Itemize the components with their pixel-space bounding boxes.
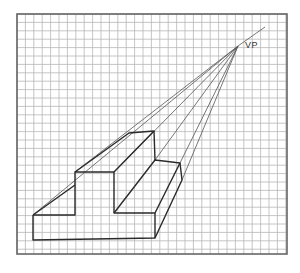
vanishing-point-label: VP bbox=[245, 40, 258, 50]
perspective-diagram: VP bbox=[0, 0, 300, 273]
